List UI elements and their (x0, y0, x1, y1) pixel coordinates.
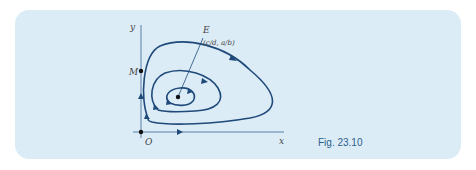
orbit-arrow-icon (166, 99, 172, 105)
x-axis-label: x (279, 136, 284, 146)
point-m (139, 69, 143, 73)
point-m-label: M (128, 67, 139, 77)
y-axis-label: y (129, 22, 136, 32)
equilibrium-point (176, 95, 180, 99)
x-axis-arrow-icon (177, 129, 183, 135)
orbit-arrow-icon (201, 78, 208, 84)
equilibrium-pointer (178, 38, 203, 97)
equilibrium-label: E (202, 25, 210, 35)
orbit-arrow-icon (153, 104, 159, 110)
equilibrium-coords: (c/d, a/b) (203, 39, 235, 47)
origin-point (139, 130, 143, 134)
origin-label: O (145, 137, 153, 147)
phase-portrait: y x O M E (c/d, a/b) (0, 0, 476, 170)
figure-caption: Fig. 23.10 (318, 137, 362, 148)
